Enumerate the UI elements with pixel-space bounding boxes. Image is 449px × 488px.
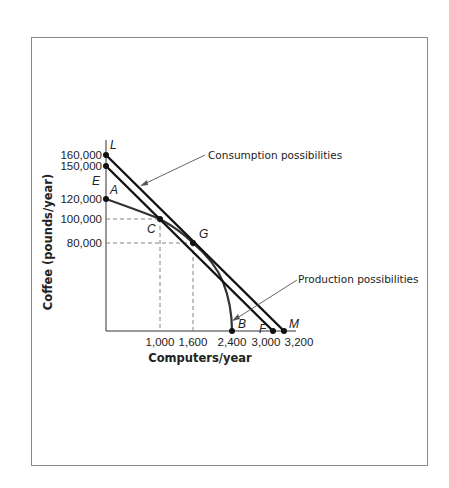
annotation-arrows xyxy=(142,155,297,320)
point-b xyxy=(229,328,235,334)
point-a xyxy=(103,196,109,202)
y-tick-150000: 150,000 xyxy=(60,160,102,172)
y-tick-120000: 120,000 xyxy=(60,193,102,205)
x-tick-3200: 3,200 xyxy=(285,336,314,348)
production-possibilities-label: Production possibilities xyxy=(298,273,419,285)
y-tick-100000: 100,000 xyxy=(60,213,102,225)
label-c: C xyxy=(147,222,156,236)
x-tick-3000: 3,000 xyxy=(252,336,281,348)
label-e: E xyxy=(92,174,101,188)
consumption-possibilities-label: Consumption possibilities xyxy=(208,149,342,161)
arrowhead-consumption-icon xyxy=(140,180,148,186)
x-tick-1600: 1,600 xyxy=(179,336,208,348)
point-m xyxy=(281,328,287,334)
label-f: F xyxy=(259,322,267,336)
point-g xyxy=(190,240,196,246)
x-tick-2400: 2,400 xyxy=(218,336,247,348)
point-c xyxy=(157,216,163,222)
trade-line-e-f xyxy=(106,166,273,331)
x-axis-label: Computers/year xyxy=(148,351,252,365)
y-axis-label: Coffee (pounds/year) xyxy=(41,174,55,310)
x-tick-1000: 1,000 xyxy=(146,336,175,348)
label-m: M xyxy=(289,317,299,331)
point-f xyxy=(270,328,276,334)
label-g: G xyxy=(199,227,208,241)
label-l: L xyxy=(110,138,117,152)
y-tick-80000: 80,000 xyxy=(67,237,102,249)
label-b: B xyxy=(238,317,246,331)
point-e xyxy=(103,163,109,169)
ppf-chart: 160,000 150,000 120,000 100,000 80,000 1… xyxy=(0,0,449,488)
label-a: A xyxy=(109,183,118,197)
point-l xyxy=(103,152,109,158)
